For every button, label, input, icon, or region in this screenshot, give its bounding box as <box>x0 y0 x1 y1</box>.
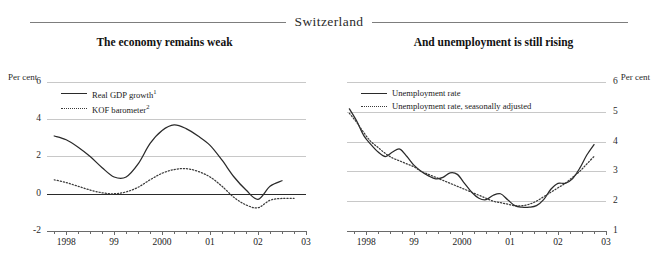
x-tick-label: 99 <box>409 237 419 247</box>
x-tick-mark <box>114 231 115 235</box>
chart-title-left: The economy remains weak <box>0 36 329 48</box>
x-tick-mark <box>606 231 607 235</box>
x-tick-mark <box>162 231 163 235</box>
x-tick-mark <box>462 231 463 235</box>
x-tick-mark <box>294 231 295 234</box>
ytick-left-0: 0 <box>36 189 41 199</box>
ytick-left-6: 6 <box>36 77 41 87</box>
series-line-real-gdp-growth <box>54 125 282 200</box>
x-tick-mark <box>78 231 79 234</box>
country-banner: Switzerland <box>0 12 658 32</box>
x-tick-mark <box>234 231 235 234</box>
x-tick-mark <box>354 231 355 234</box>
x-tick-label: 02 <box>553 237 563 247</box>
x-tick-mark <box>474 231 475 234</box>
x-tick-mark <box>198 231 199 234</box>
x-tick-mark <box>126 231 127 234</box>
x-tick-mark <box>558 231 559 235</box>
banner-rule-right <box>372 22 628 23</box>
ytick-right-2: 2 <box>613 196 618 206</box>
x-tick-mark <box>390 231 391 234</box>
ytick-right-3: 3 <box>613 166 618 176</box>
x-tick-mark <box>54 231 55 234</box>
ytick-right-4: 4 <box>613 137 618 147</box>
ytick-right-1: 1 <box>613 226 618 236</box>
unit-label-right: Per cent <box>621 72 650 82</box>
x-tick-label: 01 <box>205 237 215 247</box>
plot-area-right: 6 5 4 3 2 1 Unemployment rate Unemployme… <box>347 82 606 231</box>
series-canvas-right <box>347 82 606 231</box>
x-tick-mark <box>402 231 403 234</box>
x-tick-mark <box>174 231 175 234</box>
banner-rule-left <box>30 22 286 23</box>
ytick-left-2: 2 <box>36 151 41 161</box>
x-tick-label: 02 <box>253 237 263 247</box>
x-axis-line-left <box>47 231 306 232</box>
x-tick-label: 03 <box>301 237 311 247</box>
x-tick-mark <box>438 231 439 234</box>
chart-title-right: And unemployment is still rising <box>329 36 658 48</box>
x-axis-line-right <box>347 231 606 232</box>
chart-panel-economy: The economy remains weak Per cent 6 4 2 … <box>0 36 329 262</box>
x-tick-label: 01 <box>505 237 515 247</box>
x-tick-mark <box>210 231 211 235</box>
x-tick-mark <box>378 231 379 234</box>
x-tick-label: 1998 <box>357 237 376 247</box>
x-tick-mark <box>594 231 595 234</box>
x-tick-mark <box>222 231 223 234</box>
ytick-right-6: 6 <box>613 77 618 87</box>
ytick-left-4: 4 <box>36 114 41 124</box>
chart-panel-unemployment: And unemployment is still rising Per cen… <box>329 36 658 262</box>
x-tick-mark <box>186 231 187 234</box>
x-tick-mark <box>90 231 91 234</box>
x-tick-mark <box>570 231 571 234</box>
x-tick-mark <box>282 231 283 234</box>
ytick-right-5: 5 <box>613 107 618 117</box>
x-tick-mark <box>522 231 523 234</box>
x-tick-mark <box>138 231 139 234</box>
plot-area-left: 6 4 2 0 -2 Real GDP growth1 KOF baromete… <box>47 82 306 231</box>
x-tick-mark <box>366 231 367 235</box>
x-tick-mark <box>498 231 499 234</box>
x-tick-label: 03 <box>601 237 611 247</box>
x-tick-label: 2000 <box>153 237 172 247</box>
x-tick-mark <box>150 231 151 234</box>
x-tick-mark <box>582 231 583 234</box>
x-tick-label: 2000 <box>453 237 472 247</box>
ytick-left-minus2: -2 <box>33 226 41 236</box>
x-tick-mark <box>246 231 247 234</box>
x-tick-mark <box>66 231 67 235</box>
country-title: Switzerland <box>295 14 364 30</box>
x-tick-mark <box>486 231 487 234</box>
x-tick-mark <box>426 231 427 234</box>
x-tick-mark <box>510 231 511 235</box>
x-tick-mark <box>258 231 259 235</box>
chart-page: Switzerland The economy remains weak Per… <box>0 0 658 262</box>
series-canvas-left <box>47 82 306 231</box>
series-line-unemployment-rate-seasonally-adjusted <box>349 113 594 206</box>
unit-label-left: Per cent <box>8 72 37 82</box>
x-tick-mark <box>450 231 451 234</box>
x-tick-mark <box>270 231 271 234</box>
x-tick-mark <box>534 231 535 234</box>
x-tick-mark <box>414 231 415 235</box>
x-tick-mark <box>306 231 307 235</box>
x-tick-label: 99 <box>109 237 119 247</box>
series-line-kof-barometer <box>54 169 294 208</box>
x-tick-mark <box>546 231 547 234</box>
x-tick-label: 1998 <box>57 237 76 247</box>
x-tick-mark <box>102 231 103 234</box>
